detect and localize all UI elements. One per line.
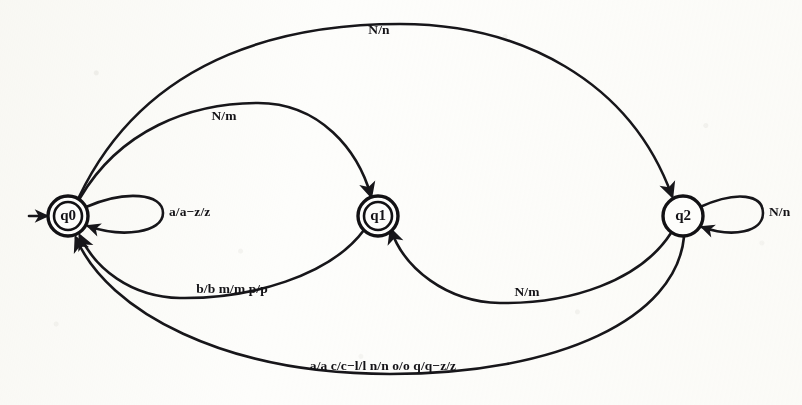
state-q1-label: q1 xyxy=(370,207,385,223)
state-diagram-canvas: q0 q1 q2 N/n N/m b/b m/m p/p N/m a/a c/c… xyxy=(0,0,802,405)
state-node-q2[interactable]: q2 xyxy=(663,196,703,236)
transition-label-q2-q0: a/a c/c−l/l n/n o/o q/q−z/z xyxy=(310,358,456,373)
transition-label-q0-q2: N/n xyxy=(368,22,390,37)
state-diagram-svg: q0 q1 q2 N/n N/m b/b m/m p/p N/m a/a c/c… xyxy=(0,0,802,405)
state-q0-label: q0 xyxy=(60,207,75,223)
self-loop-q2[interactable] xyxy=(700,197,763,233)
self-loop-label-q2: N/n xyxy=(769,204,791,219)
transition-label-q0-q1: N/m xyxy=(211,108,237,123)
state-q2-label: q2 xyxy=(675,207,690,223)
self-loop-q0[interactable] xyxy=(86,196,163,233)
self-loop-label-q0: a/a−z/z xyxy=(169,204,210,219)
transition-q2-q0[interactable] xyxy=(76,237,684,374)
state-node-q1[interactable]: q1 xyxy=(358,196,398,236)
transition-label-q2-q1: N/m xyxy=(514,284,540,299)
transition-q0-q2[interactable] xyxy=(79,24,672,197)
transition-label-q1-q0: b/b m/m p/p xyxy=(196,281,268,296)
state-node-q0[interactable]: q0 xyxy=(48,196,88,236)
